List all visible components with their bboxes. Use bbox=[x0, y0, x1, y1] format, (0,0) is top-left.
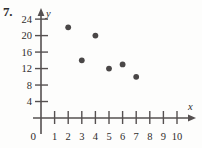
y-axis-ticks: 4812162024 bbox=[22, 14, 49, 107]
origin-label: 0 bbox=[31, 130, 37, 142]
scatter-plot-figure: 7. 4812162024 12345678910 0 y x bbox=[0, 0, 202, 148]
axes-group bbox=[33, 8, 196, 134]
y-tick-label: 8 bbox=[27, 80, 32, 91]
x-tick-label: 10 bbox=[172, 131, 183, 142]
y-tick-label: 24 bbox=[22, 14, 33, 25]
x-tick-label: 8 bbox=[147, 131, 152, 142]
y-axis-label: y bbox=[45, 8, 51, 19]
plot-svg: 4812162024 12345678910 0 y x bbox=[0, 0, 202, 148]
data-point bbox=[65, 24, 71, 30]
y-tick-label: 20 bbox=[22, 30, 33, 41]
data-point bbox=[93, 33, 99, 39]
data-point bbox=[106, 66, 112, 72]
x-axis-ticks: 12345678910 bbox=[52, 111, 182, 142]
x-tick-label: 5 bbox=[106, 131, 111, 142]
x-tick-label: 7 bbox=[134, 131, 139, 142]
x-tick-label: 1 bbox=[52, 131, 57, 142]
plot-area: 4812162024 12345678910 0 y x bbox=[0, 0, 202, 148]
data-point bbox=[120, 62, 126, 68]
x-tick-label: 3 bbox=[79, 131, 84, 142]
y-tick-label: 4 bbox=[27, 96, 33, 107]
x-axis-arrowhead bbox=[188, 115, 196, 122]
x-tick-label: 4 bbox=[93, 131, 99, 142]
data-points-group bbox=[65, 24, 139, 79]
x-tick-label: 6 bbox=[120, 131, 125, 142]
y-tick-label: 16 bbox=[22, 47, 33, 58]
data-point bbox=[79, 57, 85, 63]
data-point bbox=[133, 74, 139, 80]
x-tick-label: 9 bbox=[161, 131, 166, 142]
x-tick-label: 2 bbox=[66, 131, 71, 142]
x-axis-label: x bbox=[187, 101, 193, 112]
y-axis-arrowhead bbox=[38, 8, 45, 16]
y-tick-label: 12 bbox=[22, 63, 33, 74]
